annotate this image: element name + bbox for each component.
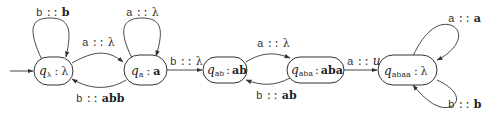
edge-label-qabaa-self-a: a::a <box>448 12 481 25</box>
state-label-q-a: qa:a <box>131 64 160 79</box>
edge-label-qa-self: a::λ <box>126 6 159 19</box>
edge-label-qa-qab: b::λ <box>170 55 203 68</box>
edge-label-qab-qaba: a::λ <box>257 37 290 50</box>
state-label-q-ab: qab:ab <box>207 63 247 78</box>
edge-label-qaba-qabaa: a::u <box>347 54 381 68</box>
edge-label-qa-qlambda: b::abb <box>76 92 125 105</box>
edge-qaba-qab-b <box>246 78 290 84</box>
edge-label-qlambda-qa: a::λ <box>82 36 115 49</box>
state-label-q-lambda: qλ:λ <box>39 64 68 79</box>
edge-qa-self-a <box>124 18 161 58</box>
edge-qlambda-self-b <box>33 18 69 60</box>
edge-qab-qaba-a <box>246 54 290 62</box>
edge-label-qlambda-self: b::b <box>36 6 70 19</box>
edge-label-qabaa-self-b: b::b <box>448 98 482 111</box>
edge-label-qaba-qab: b::ab <box>256 89 297 102</box>
edge-qa-qlambda-b <box>72 79 126 87</box>
edge-qlambda-qa-a <box>72 53 123 63</box>
transducer-diagram: qλ:λ qa:a qab:ab qaba:aba qabaa:λ b::b a… <box>0 0 489 114</box>
